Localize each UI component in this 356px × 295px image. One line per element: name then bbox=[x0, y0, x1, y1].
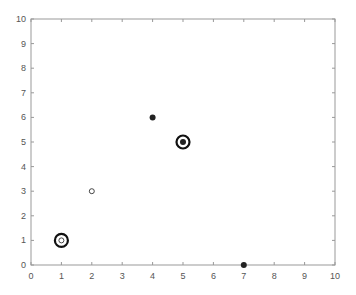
hollow-point-marker bbox=[89, 189, 94, 194]
y-tick-label: 6 bbox=[21, 112, 26, 122]
filled-point-marker bbox=[180, 139, 186, 145]
data-points bbox=[55, 114, 247, 268]
x-tick-label: 10 bbox=[330, 271, 340, 281]
y-tick-label: 4 bbox=[21, 162, 26, 172]
scatter-chart: 012345678910012345678910 bbox=[0, 0, 356, 295]
x-tick-label: 6 bbox=[211, 271, 216, 281]
x-tick-label: 3 bbox=[120, 271, 125, 281]
filled-point-marker bbox=[150, 114, 156, 120]
x-tick-label: 0 bbox=[28, 271, 33, 281]
y-tick-label: 1 bbox=[21, 235, 26, 245]
y-tick-label: 2 bbox=[21, 211, 26, 221]
x-tick-label: 9 bbox=[302, 271, 307, 281]
x-tick-label: 7 bbox=[241, 271, 246, 281]
y-tick-label: 0 bbox=[21, 260, 26, 270]
y-tick-label: 5 bbox=[21, 137, 26, 147]
y-tick-label: 8 bbox=[21, 63, 26, 73]
x-tick-label: 4 bbox=[150, 271, 155, 281]
x-tick-label: 8 bbox=[272, 271, 277, 281]
y-tick-label: 9 bbox=[21, 39, 26, 49]
x-tick-label: 1 bbox=[59, 271, 64, 281]
y-tick-label: 3 bbox=[21, 186, 26, 196]
y-tick-label: 7 bbox=[21, 88, 26, 98]
x-tick-label: 2 bbox=[89, 271, 94, 281]
hollow-point-marker bbox=[59, 238, 64, 243]
y-tick-label: 10 bbox=[16, 14, 26, 24]
filled-point-marker bbox=[241, 262, 247, 268]
x-tick-label: 5 bbox=[180, 271, 185, 281]
